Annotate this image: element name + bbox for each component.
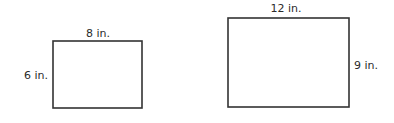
large-rectangle-group: 12 in. 9 in.	[228, 2, 378, 107]
large-rectangle-height-label: 9 in.	[354, 59, 378, 72]
small-rectangle-width-label: 8 in.	[86, 27, 110, 40]
small-rectangle-group: 8 in. 6 in.	[24, 27, 142, 108]
small-rectangle	[53, 41, 142, 108]
large-rectangle	[228, 18, 349, 107]
small-rectangle-height-label: 6 in.	[24, 69, 48, 82]
rectangles-diagram: 8 in. 6 in. 12 in. 9 in.	[0, 0, 394, 123]
large-rectangle-width-label: 12 in.	[270, 2, 301, 15]
